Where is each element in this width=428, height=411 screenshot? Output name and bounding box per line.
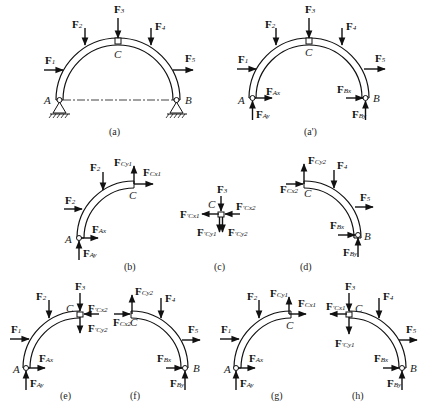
svg-text:B: B — [193, 362, 200, 374]
svg-text:FCx1: FCx1 — [298, 297, 316, 309]
svg-text:F3: F3 — [305, 3, 316, 15]
svg-text:(g): (g) — [271, 390, 283, 402]
svg-text:F1: F1 — [221, 323, 231, 335]
panel-d: FCy2 FCx2 C F4 F5 FBx B FBy (d) — [280, 154, 373, 273]
svg-text:F4: F4 — [346, 20, 357, 32]
svg-text:FAy: FAy — [30, 377, 45, 389]
svg-text:B: B — [373, 92, 380, 104]
svg-text:FBy: FBy — [343, 246, 358, 258]
svg-text:F3: F3 — [345, 280, 356, 292]
svg-text:A: A — [12, 363, 20, 375]
svg-text:B: B — [410, 362, 417, 374]
svg-text:B: B — [364, 230, 371, 242]
panel-b: F2 F2 FCy1 FCx1 FAx FAy C A (b) — [64, 156, 161, 273]
svg-text:A: A — [43, 94, 51, 106]
svg-text:FCy2: FCy2 — [135, 285, 154, 297]
svg-text:F′Cy1: F′Cy1 — [335, 337, 355, 349]
svg-text:F2: F2 — [247, 290, 258, 302]
svg-text:F2: F2 — [72, 18, 83, 30]
svg-text:F5: F5 — [375, 52, 386, 64]
svg-text:C: C — [305, 46, 313, 58]
svg-text:F′Cx1: F′Cx1 — [180, 208, 200, 220]
svg-text:F5: F5 — [188, 323, 199, 335]
panel-h: F3 C F′Cx1 F′Cy1 F4 F5 FBx B FBy (h) — [326, 280, 417, 402]
svg-text:C: C — [355, 302, 363, 314]
svg-text:B: B — [185, 94, 192, 106]
support-a-icon — [53, 102, 66, 113]
svg-text:A: A — [237, 94, 245, 106]
support-b-icon — [170, 102, 183, 113]
svg-text:F5: F5 — [185, 52, 196, 64]
svg-text:FAx: FAx — [266, 85, 281, 97]
panel-c: F3 C F′Cx1 F′Cx2 F′Cy1 F′Cy2 (c) — [180, 183, 256, 273]
svg-text:F2: F2 — [265, 18, 276, 30]
svg-text:FAx: FAx — [92, 223, 107, 235]
svg-text:FCy1: FCy1 — [270, 287, 288, 299]
svg-text:F2: F2 — [36, 290, 47, 302]
svg-text:FAy: FAy — [83, 247, 98, 259]
svg-text:F2: F2 — [90, 161, 101, 173]
panel-g: F1 F2 FCy1 FCx1 C FAx FAy A (g) — [220, 287, 316, 402]
svg-text:FBy: FBy — [352, 108, 367, 120]
svg-text:F′Cx2: F′Cx2 — [236, 200, 256, 212]
svg-text:F′Cy1: F′Cy1 — [197, 226, 217, 238]
svg-text:FBx: FBx — [330, 219, 345, 231]
svg-text:C: C — [66, 302, 74, 314]
svg-text:(e): (e) — [60, 390, 71, 402]
svg-text:F3: F3 — [75, 280, 86, 292]
svg-text:(f): (f) — [130, 390, 140, 402]
svg-text:F4: F4 — [383, 290, 394, 302]
svg-text:F′Cx2: F′Cx2 — [88, 302, 108, 314]
svg-text:F4: F4 — [155, 20, 166, 32]
svg-text:FBy: FBy — [387, 377, 402, 389]
panel-a-prime: F1 F2 F3 F4 F5 FAx FAy FBx FBy C A B (a'… — [237, 3, 386, 138]
svg-text:FCx2: FCx2 — [113, 316, 132, 328]
svg-text:C: C — [208, 198, 216, 210]
svg-text:FAy: FAy — [240, 377, 255, 389]
svg-text:F′Cy2: F′Cy2 — [88, 322, 108, 334]
svg-text:(d): (d) — [300, 261, 312, 273]
svg-text:(a): (a) — [109, 126, 120, 138]
svg-text:F1: F1 — [238, 53, 248, 65]
hinge-c — [115, 38, 121, 44]
arch-free-body-diagrams: F1 F2 F3 F4 F5 C A B (a) F1 F2 F3 F4 F5 … — [0, 0, 428, 411]
svg-text:A: A — [64, 233, 72, 245]
svg-text:F3: F3 — [114, 3, 125, 15]
svg-text:FCx2: FCx2 — [280, 183, 299, 195]
svg-text:FBx: FBx — [374, 352, 389, 364]
svg-text:FCx1: FCx1 — [143, 166, 161, 178]
svg-text:F1: F1 — [11, 323, 21, 335]
panel-f: FCy2 FCx2 C F4 F5 FBx B FBy (f) — [113, 285, 200, 402]
svg-text:C: C — [129, 189, 137, 201]
svg-text:(c): (c) — [214, 261, 225, 273]
svg-text:F4: F4 — [165, 292, 176, 304]
svg-text:(b): (b) — [124, 261, 136, 273]
svg-text:FAy: FAy — [256, 108, 271, 120]
svg-text:FAx: FAx — [249, 352, 264, 364]
svg-text:F′Cx1: F′Cx1 — [326, 300, 346, 312]
svg-text:FBx: FBx — [157, 352, 172, 364]
panel-e: F1 F2 F3 C F′Cx2 F′Cy2 FAx FAy A (e) — [10, 280, 108, 402]
svg-text:FCy2: FCy2 — [308, 154, 327, 166]
svg-text:F′Cy2: F′Cy2 — [228, 226, 248, 238]
svg-text:F5: F5 — [360, 191, 371, 203]
svg-text:FAx: FAx — [39, 352, 54, 364]
svg-text:C: C — [286, 319, 294, 331]
svg-text:F3: F3 — [217, 183, 228, 195]
svg-text:(h): (h) — [352, 390, 364, 402]
svg-text:F5: F5 — [406, 323, 417, 335]
svg-text:FBy: FBy — [170, 377, 185, 389]
svg-text:F4: F4 — [337, 159, 348, 171]
svg-text:(a'): (a') — [304, 126, 317, 138]
svg-text:C: C — [114, 48, 122, 60]
svg-text:FBx: FBx — [337, 83, 352, 95]
svg-text:F2: F2 — [65, 194, 76, 206]
svg-text:A: A — [223, 363, 231, 375]
svg-text:C: C — [130, 316, 138, 328]
svg-text:FCy1: FCy1 — [114, 156, 132, 168]
svg-text:C: C — [304, 187, 312, 199]
svg-text:F1: F1 — [45, 54, 55, 66]
panel-a: F1 F2 F3 F4 F5 C A B (a) — [43, 3, 196, 138]
